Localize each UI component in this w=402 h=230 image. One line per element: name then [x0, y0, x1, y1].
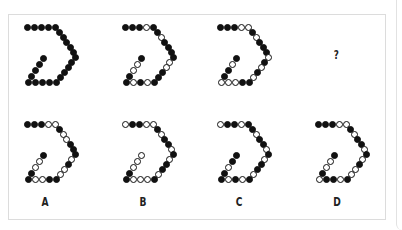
filled-dot: [25, 79, 32, 86]
hollow-dot: [130, 164, 137, 171]
filled-dot: [246, 79, 253, 86]
filled-dot: [24, 121, 31, 128]
hollow-dot: [144, 79, 151, 86]
hollow-dot: [316, 176, 323, 183]
filled-dot: [38, 24, 45, 31]
filled-dot: [126, 73, 133, 80]
filled-dot: [53, 176, 60, 183]
filled-dot: [224, 24, 231, 31]
option-c-figure[interactable]: [217, 121, 277, 183]
filled-dot: [32, 67, 39, 74]
hollow-dot: [336, 121, 343, 128]
filled-dot: [231, 121, 238, 128]
filled-dot: [344, 176, 351, 183]
option-a-figure[interactable]: [24, 121, 84, 183]
filled-dot: [136, 24, 143, 31]
option-a-label[interactable]: A: [38, 194, 52, 209]
hollow-dot: [239, 176, 246, 183]
missing-figure-question-mark: ?: [334, 47, 339, 62]
filled-dot: [330, 176, 337, 183]
hollow-dot: [32, 176, 39, 183]
hollow-dot: [39, 176, 46, 183]
filled-dot: [32, 79, 39, 86]
filled-dot: [46, 79, 53, 86]
filled-dot: [232, 176, 239, 183]
filled-dot: [138, 55, 145, 62]
filled-dot: [322, 121, 329, 128]
sequence-figure-3: [217, 24, 277, 86]
filled-dot: [315, 121, 322, 128]
filled-dot: [231, 24, 238, 31]
filled-dot: [136, 121, 143, 128]
filled-dot: [323, 176, 330, 183]
hollow-dot: [323, 164, 330, 171]
sequence-figure-1: [24, 24, 84, 86]
option-c-label[interactable]: C: [232, 194, 246, 209]
filled-dot: [123, 176, 130, 183]
sequence-figure-2: [122, 24, 182, 86]
filled-dot: [36, 61, 43, 68]
filled-dot: [319, 170, 326, 177]
hollow-dot: [138, 152, 145, 159]
filled-dot: [28, 73, 35, 80]
hollow-dot: [218, 79, 225, 86]
page-edge: [396, 0, 402, 230]
filled-dot: [329, 121, 336, 128]
filled-dot: [39, 79, 46, 86]
hollow-dot: [225, 164, 232, 171]
filled-dot: [246, 176, 253, 183]
hollow-dot: [225, 176, 232, 183]
filled-dot: [233, 55, 240, 62]
hollow-dot: [238, 121, 245, 128]
filled-dot: [24, 24, 31, 31]
filled-dot: [129, 24, 136, 31]
option-b-figure[interactable]: [122, 121, 182, 183]
filled-dot: [224, 121, 231, 128]
filled-dot: [38, 121, 45, 128]
filled-dot: [28, 170, 35, 177]
hollow-dot: [134, 158, 141, 165]
hollow-dot: [122, 121, 129, 128]
hollow-dot: [36, 158, 43, 165]
filled-dot: [123, 79, 130, 86]
filled-dot: [122, 24, 129, 31]
filled-dot: [218, 176, 225, 183]
hollow-dot: [337, 176, 344, 183]
filled-dot: [239, 79, 246, 86]
filled-dot: [25, 176, 32, 183]
hollow-dot: [130, 176, 137, 183]
filled-dot: [46, 176, 53, 183]
filled-dot: [331, 152, 338, 159]
hollow-dot: [130, 79, 137, 86]
hollow-dot: [45, 121, 52, 128]
filled-dot: [217, 24, 224, 31]
hollow-dot: [134, 61, 141, 68]
hollow-dot: [217, 121, 224, 128]
filled-dot: [31, 24, 38, 31]
hollow-dot: [232, 79, 239, 86]
hollow-dot: [238, 24, 245, 31]
hollow-dot: [225, 79, 232, 86]
filled-dot: [53, 79, 60, 86]
hollow-dot: [144, 176, 151, 183]
filled-dot: [137, 79, 144, 86]
hollow-dot: [143, 121, 150, 128]
filled-dot: [151, 79, 158, 86]
hollow-dot: [229, 61, 236, 68]
filled-dot: [151, 176, 158, 183]
option-d-figure[interactable]: [315, 121, 375, 183]
filled-dot: [45, 24, 52, 31]
option-b-label[interactable]: B: [136, 194, 150, 209]
filled-dot: [221, 73, 228, 80]
filled-dot: [40, 152, 47, 159]
filled-dot: [229, 158, 236, 165]
filled-dot: [221, 170, 228, 177]
filled-dot: [126, 170, 133, 177]
filled-dot: [40, 55, 47, 62]
hollow-dot: [327, 158, 334, 165]
hollow-dot: [130, 67, 137, 74]
filled-dot: [233, 152, 240, 159]
hollow-dot: [32, 164, 39, 171]
option-d-label[interactable]: D: [330, 194, 344, 209]
filled-dot: [31, 121, 38, 128]
